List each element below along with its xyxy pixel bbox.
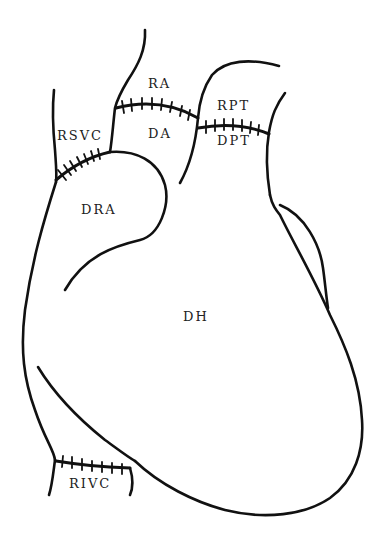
inferior-heart-curve [38,367,135,461]
ivc-right-wall [130,468,132,495]
label-ra: RA [148,76,171,91]
ivc-left-wall [49,460,55,495]
label-dpt: DPT [217,133,251,148]
pulmonary-trunk-arch [180,61,279,183]
svc-left-wall [53,90,57,182]
heart-left-border [23,182,56,460]
donor-right-atrium-outline [65,152,166,290]
heart-diagram [0,0,376,535]
aortic-suture-line [116,104,198,118]
label-rsvc: RSVC [57,128,103,143]
ivc-suture-ticks [62,456,122,474]
label-dra: DRA [81,202,117,217]
aorta-left-wall [110,30,145,152]
label-da: DA [148,126,172,141]
pulmonary-trunk-right-wall [267,93,285,195]
label-rivc: RIVC [69,476,111,491]
label-rpt: RPT [217,98,250,113]
heart-right-border [135,195,362,515]
ivc-suture-line [56,461,130,468]
label-dh: DH [183,309,209,324]
